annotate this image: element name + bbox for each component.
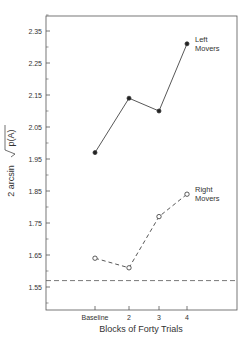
series-line xyxy=(95,44,187,153)
y-tick-label: 2.15 xyxy=(28,92,42,99)
plot-frame xyxy=(46,16,237,310)
series-label: Left xyxy=(195,35,208,44)
y-axis-title-prefix: 2 arcsin xyxy=(6,165,16,197)
filled-circle-marker xyxy=(185,42,189,46)
line-chart: 1.551.651.751.851.952.052.152.252.35 Bas… xyxy=(0,0,250,342)
open-circle-marker xyxy=(157,214,161,218)
y-axis-title-radicand: p(A) xyxy=(6,129,16,146)
open-circle-marker xyxy=(93,256,97,260)
y-tick-label: 1.95 xyxy=(28,156,42,163)
filled-circle-marker xyxy=(157,109,161,113)
x-axis: Baseline234 xyxy=(82,306,189,321)
filled-circle-marker xyxy=(127,96,131,100)
y-tick-label: 1.65 xyxy=(28,252,42,259)
y-tick-label: 2.25 xyxy=(28,60,42,67)
x-tick-label: 2 xyxy=(127,314,131,321)
y-axis: 1.551.651.751.851.952.052.152.252.35 xyxy=(28,15,50,303)
y-tick-label: 2.05 xyxy=(28,124,42,131)
series-label: Movers xyxy=(195,194,220,203)
open-circle-marker xyxy=(185,192,189,196)
series-label: Right xyxy=(195,185,213,194)
x-tick-label: 4 xyxy=(185,314,189,321)
x-tick-label: 3 xyxy=(157,314,161,321)
x-tick-label: Baseline xyxy=(82,314,109,321)
filled-circle-marker xyxy=(93,151,97,155)
series-group: LeftMoversRightMovers xyxy=(93,35,220,270)
y-tick-label: 1.55 xyxy=(28,284,42,291)
y-tick-label: 1.75 xyxy=(28,220,42,227)
series-line xyxy=(95,194,187,268)
y-tick-label: 1.85 xyxy=(28,188,42,195)
y-axis-title: 2 arcsin p(A) xyxy=(5,125,16,197)
y-tick-label: 2.35 xyxy=(28,28,42,35)
x-axis-title: Blocks of Forty Trials xyxy=(99,324,183,334)
series-label: Movers xyxy=(195,44,220,53)
open-circle-marker xyxy=(127,266,131,270)
